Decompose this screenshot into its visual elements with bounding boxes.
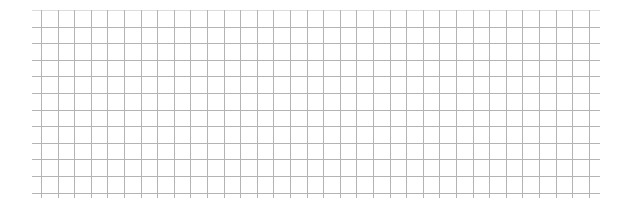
grid-paper bbox=[0, 0, 631, 214]
